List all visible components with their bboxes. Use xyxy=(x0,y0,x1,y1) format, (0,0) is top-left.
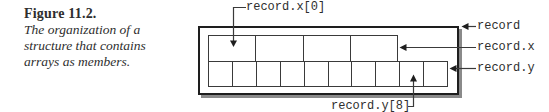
array-cell xyxy=(352,62,376,86)
array-cell xyxy=(351,36,397,61)
record-y8-label: record.y[8] xyxy=(331,99,410,112)
array-cell xyxy=(209,36,256,61)
figure-caption: Figure 11.2. The organization of a struc… xyxy=(24,6,184,70)
record-arrow xyxy=(462,23,477,30)
array-cell xyxy=(329,62,353,86)
record-x-row xyxy=(208,35,398,61)
array-cell xyxy=(376,62,400,86)
record-x-label: record.x xyxy=(477,40,535,54)
array-cell xyxy=(209,62,233,86)
array-cell xyxy=(304,36,351,61)
figure-11-2: Figure 11.2. The organization of a struc… xyxy=(0,0,549,112)
array-cell xyxy=(281,62,305,86)
array-cell xyxy=(400,62,424,86)
array-cell xyxy=(257,62,281,86)
caption-line-1: The organization of a xyxy=(24,22,184,38)
caption-line-3: arrays as members. xyxy=(24,54,184,70)
array-cell xyxy=(305,62,329,86)
array-cell xyxy=(424,62,447,86)
array-cell xyxy=(233,62,257,86)
figure-number: Figure 11.2. xyxy=(24,6,184,22)
record-label: record xyxy=(477,19,520,33)
record-struct-box xyxy=(198,26,459,95)
array-cell xyxy=(256,36,303,61)
record-x0-label: record.x[0] xyxy=(246,0,325,14)
record-y-row xyxy=(208,61,448,87)
record-y-label: record.y xyxy=(477,61,535,75)
caption-line-2: structure that contains xyxy=(24,38,184,54)
